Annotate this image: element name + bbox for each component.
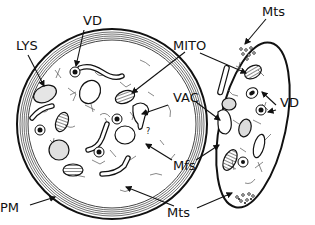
label-lys: LYS — [16, 38, 38, 53]
label-mts-bottom: Mts — [167, 205, 190, 220]
label-vd-left: VD — [83, 13, 102, 28]
label-pm: PM — [0, 200, 19, 215]
svg-text:?: ? — [146, 127, 150, 136]
label-vac: VAC — [173, 90, 199, 105]
cell-diagram: ? — [0, 0, 315, 225]
vesicle — [70, 67, 80, 77]
label-mito: MITO — [173, 38, 206, 53]
label-vd-right: VD — [280, 95, 299, 110]
label-mfs: Mfs — [173, 158, 196, 173]
label-mts-top: Mts — [262, 4, 285, 19]
elongated-cell — [203, 36, 302, 214]
